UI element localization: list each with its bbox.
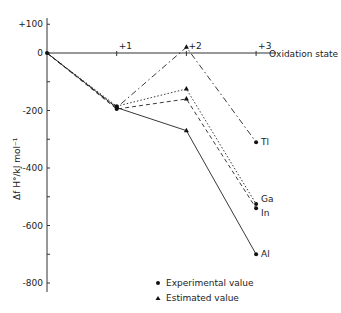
series-label: In — [261, 208, 269, 218]
x-axis-label: Oxidation state — [269, 49, 339, 59]
experimental-point — [254, 206, 258, 210]
y-tick-label: -600 — [23, 221, 44, 231]
series-label: Al — [261, 249, 270, 259]
series-in-line — [47, 53, 256, 208]
x-tick-label: +1 — [119, 41, 132, 51]
estimated-point — [184, 86, 189, 91]
series-label: Tl — [260, 137, 269, 147]
y-axis-label: Δf H°/kJ mol⁻¹ — [12, 137, 22, 200]
y-tick-label: 0 — [37, 48, 43, 58]
series-al-line — [47, 53, 256, 254]
series-label: Ga — [261, 194, 274, 204]
experimental-point — [115, 106, 119, 110]
estimated-point — [184, 96, 189, 101]
legend-triangle-icon — [156, 296, 161, 300]
enthalpy-chart: +1000-200-400-600-800 +1+2+3 Oxidation s… — [0, 0, 341, 313]
y-tick-label: -800 — [23, 278, 44, 288]
y-tick-label: -400 — [23, 163, 44, 173]
experimental-point — [254, 140, 258, 144]
x-tick-label: +2 — [188, 41, 201, 51]
series-ga-line — [47, 53, 256, 204]
y-tick-label: +100 — [18, 19, 43, 29]
series-tl-line — [47, 47, 256, 142]
legend-estimated: Estimated value — [166, 293, 239, 303]
experimental-point — [254, 252, 258, 256]
experimental-point — [254, 202, 258, 206]
legend-circle-icon — [156, 281, 160, 285]
legend-experimental: Experimental value — [166, 278, 254, 288]
y-tick-label: -200 — [23, 106, 44, 116]
